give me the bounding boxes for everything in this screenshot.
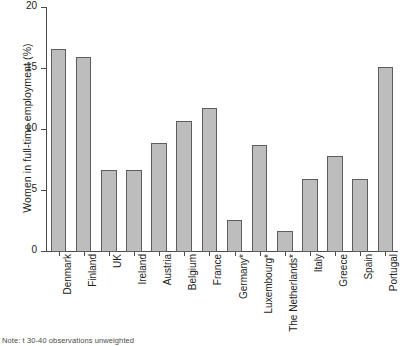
bar	[277, 231, 293, 252]
x-axis-label: Austria	[163, 254, 173, 285]
y-tick-label: 20	[26, 0, 37, 11]
bar	[352, 179, 368, 252]
x-axis-label: Belgium	[188, 254, 198, 290]
y-tick-label: 10	[26, 122, 37, 133]
x-axis-label: Finland	[88, 254, 98, 287]
y-tick-label: 0	[31, 244, 37, 255]
plot-area: 05101520	[46, 8, 398, 252]
y-tick-10: 10	[41, 129, 47, 130]
bar	[227, 220, 243, 252]
x-axis-label: Portugal	[389, 254, 399, 291]
bar	[202, 108, 218, 252]
bar	[378, 67, 394, 252]
bar	[51, 49, 67, 252]
x-axis-label: France	[213, 254, 223, 285]
x-axis-label: UK	[113, 254, 123, 268]
bar	[76, 57, 92, 252]
x-axis-label: Spain	[364, 254, 374, 280]
chart-footnote: Note: t 30-40 observations unweighted	[2, 336, 134, 345]
x-axis-label: Greece	[339, 254, 349, 287]
y-tick-15: 15	[41, 68, 47, 69]
y-tick-20: 20	[41, 7, 47, 8]
x-axis-label: Denmark	[63, 254, 73, 295]
bar	[151, 143, 167, 252]
x-axis-label: Germany*	[239, 254, 249, 299]
bar	[302, 179, 318, 252]
x-axis-label: The Netherlands*	[289, 254, 299, 332]
y-tick-label: 15	[26, 61, 37, 72]
y-tick-label: 5	[31, 183, 37, 194]
bar	[126, 170, 142, 252]
x-axis-label: Luxembourg*	[264, 254, 274, 313]
x-axis-labels: DenmarkFinlandUKIrelandAustriaBelgiumFra…	[46, 254, 398, 334]
y-tick-5: 5	[41, 190, 47, 191]
y-tick-0: 0	[41, 251, 47, 252]
bar	[101, 170, 117, 252]
bar	[176, 121, 192, 252]
x-axis-label: Ireland	[138, 254, 148, 285]
x-axis-label: Italy	[314, 254, 324, 272]
bar-chart-figure: Women in full-time employment (%) 051015…	[0, 0, 406, 346]
bar	[252, 145, 268, 252]
bar	[327, 156, 343, 252]
bar-group	[46, 8, 398, 252]
